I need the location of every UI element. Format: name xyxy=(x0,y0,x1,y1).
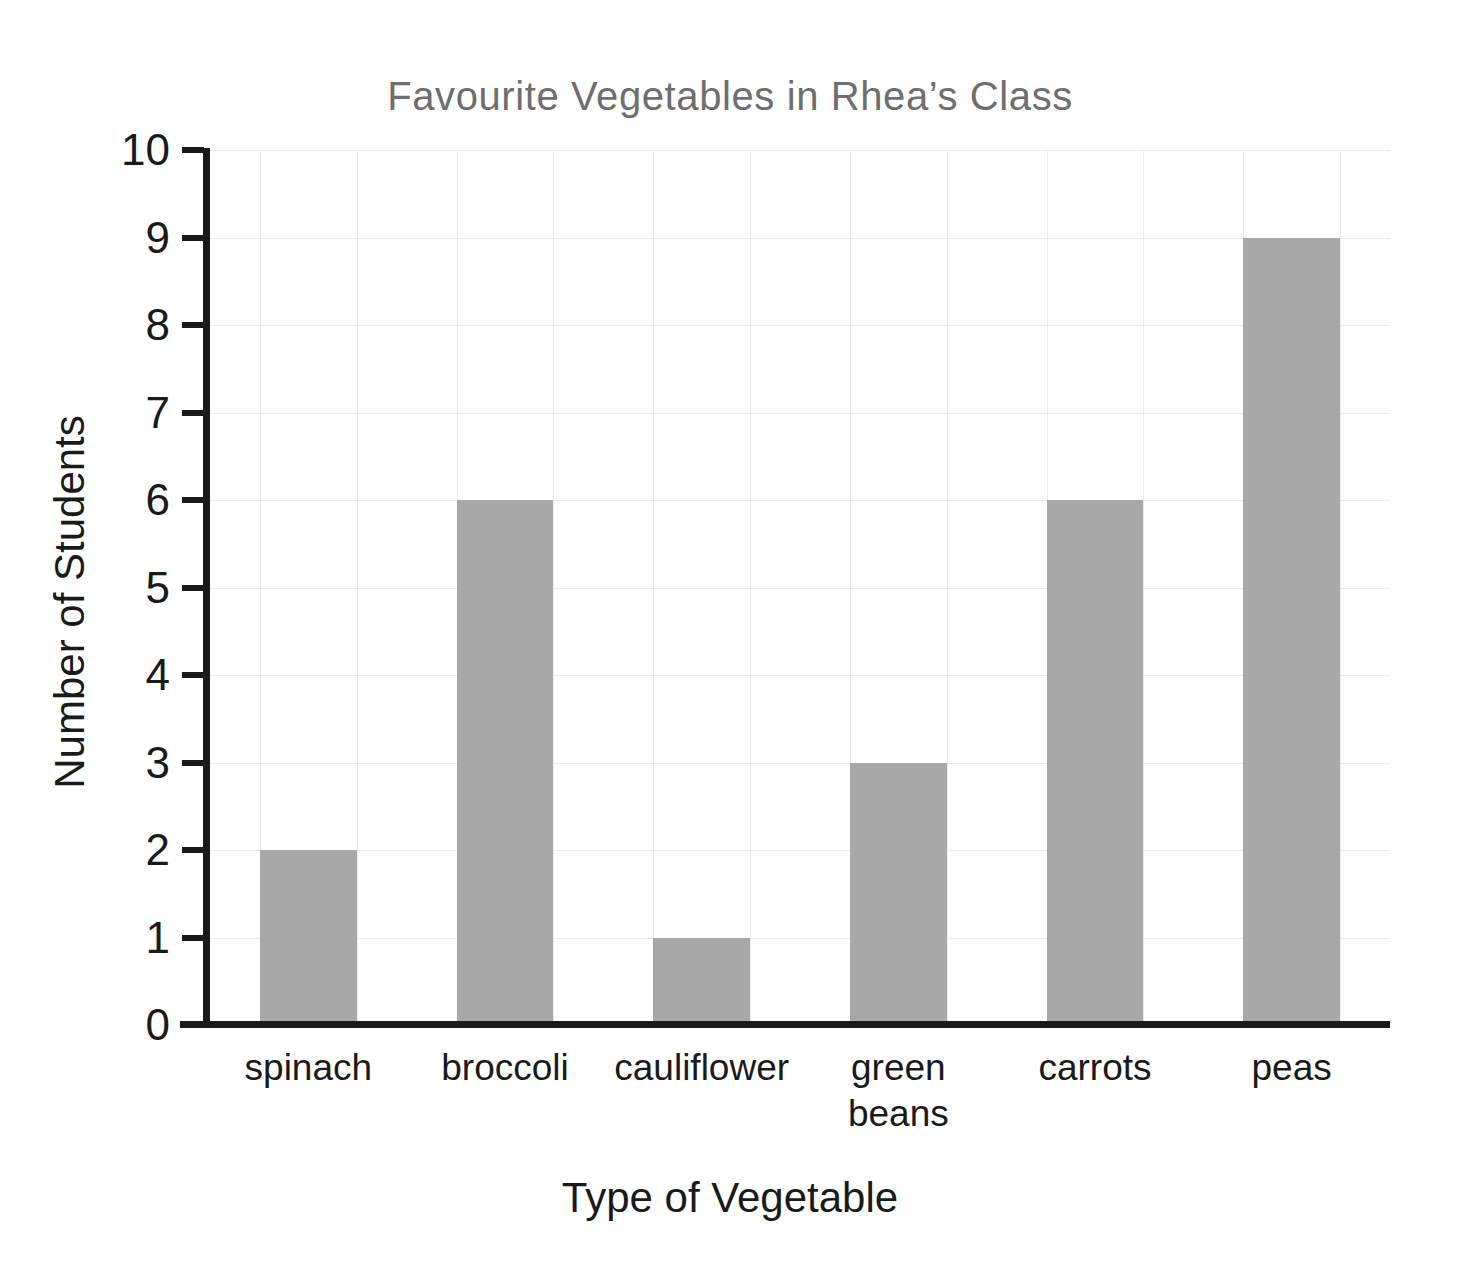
y-axis-spine xyxy=(203,148,210,1027)
gridline-vertical xyxy=(947,150,948,1025)
y-axis-tick-label: 4 xyxy=(50,653,170,697)
bar xyxy=(1047,500,1143,1025)
x-axis-title: Type of Vegetable xyxy=(0,1174,1460,1222)
y-axis-tick-label: 10 xyxy=(50,128,170,172)
y-axis-tick xyxy=(182,672,204,678)
bar xyxy=(653,938,749,1026)
bar-chart-figure: Favourite Vegetables in Rhea’s Class Num… xyxy=(0,0,1460,1269)
gridline-horizontal xyxy=(210,500,1390,501)
bar xyxy=(1243,238,1339,1026)
gridline-horizontal xyxy=(210,850,1390,851)
plot-area xyxy=(210,150,1390,1025)
gridline-horizontal xyxy=(210,150,1390,151)
gridline-horizontal xyxy=(210,325,1390,326)
gridline-horizontal xyxy=(210,588,1390,589)
bar xyxy=(457,500,553,1025)
y-axis-tick xyxy=(182,322,204,328)
y-axis-tick xyxy=(182,1022,204,1028)
x-axis-tick-label: peas xyxy=(1193,1045,1390,1091)
bar xyxy=(850,763,946,1026)
gridline-horizontal xyxy=(210,413,1390,414)
y-axis-tick-label: 5 xyxy=(50,566,170,610)
y-axis-tick-label: 3 xyxy=(50,741,170,785)
x-axis-tick-label: carrots xyxy=(997,1045,1194,1091)
x-axis-tick-labels: spinachbroccolicauliflowergreenbeanscarr… xyxy=(210,1045,1390,1165)
gridline-vertical xyxy=(357,150,358,1025)
x-axis-tick-label: greenbeans xyxy=(800,1045,997,1138)
gridline-vertical xyxy=(653,150,654,1025)
y-axis-tick-label: 8 xyxy=(50,303,170,347)
gridline-vertical xyxy=(750,150,751,1025)
y-axis-tick-label: 2 xyxy=(50,828,170,872)
y-axis-tick xyxy=(182,497,204,503)
y-axis-tick-labels: 012345678910 xyxy=(40,0,170,1269)
y-axis-tick xyxy=(182,147,204,153)
y-axis-tick xyxy=(182,585,204,591)
y-axis-tick xyxy=(182,847,204,853)
gridline-vertical xyxy=(1340,150,1341,1025)
gridline-vertical xyxy=(553,150,554,1025)
y-axis-tick xyxy=(182,235,204,241)
gridline-horizontal xyxy=(210,238,1390,239)
gridline-horizontal xyxy=(210,763,1390,764)
y-axis-tick xyxy=(182,410,204,416)
gridline-vertical xyxy=(1143,150,1144,1025)
x-axis-tick-label: cauliflower xyxy=(603,1045,800,1091)
y-axis-tick-label: 1 xyxy=(50,916,170,960)
x-axis-spine xyxy=(180,1021,1390,1028)
y-axis-tick-label: 0 xyxy=(50,1003,170,1047)
x-axis-tick-label: broccoli xyxy=(407,1045,604,1091)
y-axis-tick-label: 9 xyxy=(50,216,170,260)
chart-title: Favourite Vegetables in Rhea’s Class xyxy=(0,74,1460,119)
y-axis-tick xyxy=(182,760,204,766)
y-axis-tick-label: 6 xyxy=(50,478,170,522)
bar xyxy=(260,850,356,1025)
gridline-horizontal xyxy=(210,938,1390,939)
gridline-horizontal xyxy=(210,675,1390,676)
y-axis-tick xyxy=(182,935,204,941)
y-axis-tick-label: 7 xyxy=(50,391,170,435)
x-axis-tick-label: spinach xyxy=(210,1045,407,1091)
